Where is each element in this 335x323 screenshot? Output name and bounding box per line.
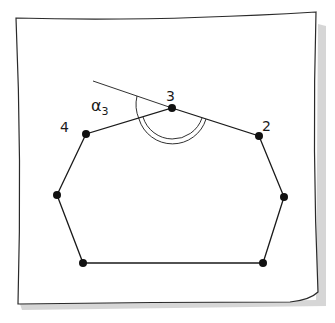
paper-sheet [16, 12, 318, 304]
vertex-2-label: 2 [262, 118, 271, 134]
vertex-bottom-left-dot [79, 259, 87, 267]
vertex-right-dot [280, 193, 288, 201]
vertex-bottom-right-dot [259, 259, 267, 267]
angle-symbol: α [91, 96, 102, 115]
diagram-canvas: 3 2 4 α3 [0, 0, 335, 323]
vertex-3-label: 3 [166, 88, 175, 104]
angle-subscript: 3 [102, 105, 109, 118]
vertex-4-label: 4 [60, 119, 69, 135]
vertex-4-dot [82, 130, 90, 138]
vertex-3-dot [168, 104, 176, 112]
vertex-left-dot [53, 191, 61, 199]
